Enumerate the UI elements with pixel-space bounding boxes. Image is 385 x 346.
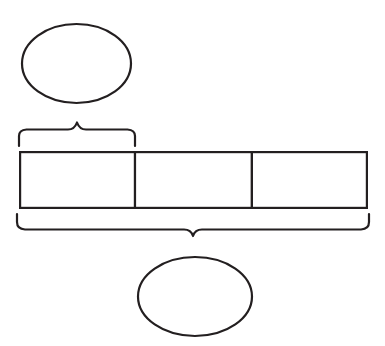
top-brace-group [19, 123, 135, 147]
bar-cell-2[interactable] [135, 152, 252, 208]
top-ellipse-group[interactable] [22, 24, 131, 103]
tape-diagram-svg [0, 0, 385, 346]
bottom-ellipse[interactable] [138, 257, 252, 336]
bar-cell-1[interactable] [20, 152, 135, 208]
top-brace [19, 123, 135, 147]
bar-row [20, 152, 367, 208]
bottom-brace-group [17, 214, 369, 236]
tape-diagram-canvas [0, 0, 385, 346]
bar-cell-3[interactable] [252, 152, 367, 208]
bottom-ellipse-group[interactable] [138, 257, 252, 336]
bottom-brace [17, 214, 369, 236]
top-ellipse[interactable] [22, 24, 131, 103]
